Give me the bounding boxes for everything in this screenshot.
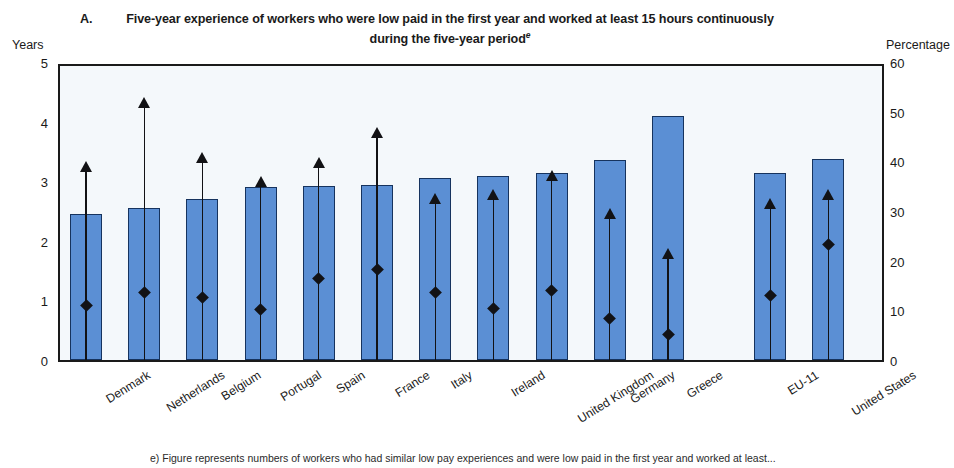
- arrow-marker-11: [764, 198, 776, 209]
- range-line-9: [609, 213, 610, 360]
- arrow-marker-6: [429, 193, 441, 204]
- range-line-11: [770, 203, 771, 360]
- range-line-4: [318, 162, 319, 360]
- arrow-marker-1: [138, 97, 150, 108]
- left-tick-5: 5: [0, 57, 48, 70]
- arrow-marker-8: [546, 170, 558, 181]
- arrow-marker-3: [255, 176, 267, 187]
- range-line-0: [85, 166, 86, 360]
- left-axis-unit-label: Years: [12, 38, 44, 52]
- category-label-eu-11: EU-11: [785, 368, 821, 398]
- range-line-3: [260, 181, 261, 360]
- category-label-belgium: Belgium: [219, 368, 264, 403]
- category-label-united-states: United States: [850, 368, 919, 419]
- category-label-greece: Greece: [684, 368, 725, 401]
- arrow-marker-4: [313, 157, 325, 168]
- right-tick-20: 20: [890, 256, 904, 269]
- left-tick-0: 0: [0, 355, 48, 368]
- arrow-marker-10: [662, 248, 674, 259]
- chart-footnote: e) Figure represents numbers of workers …: [150, 452, 850, 466]
- range-line-8: [551, 175, 552, 360]
- arrow-marker-5: [371, 127, 383, 138]
- arrow-marker-7: [487, 189, 499, 200]
- chart-title-line-2: during the five-year period: [370, 32, 526, 46]
- category-label-portugal: Portugal: [277, 368, 323, 404]
- left-tick-4: 4: [0, 117, 48, 130]
- arrow-marker-0: [80, 161, 92, 172]
- chart-figure: A. Five-year experience of workers who w…: [0, 0, 954, 468]
- range-line-2: [202, 157, 203, 360]
- range-line-6: [435, 198, 436, 360]
- left-tick-2: 2: [0, 236, 48, 249]
- left-tick-1: 1: [0, 295, 48, 308]
- right-tick-30: 30: [890, 206, 904, 219]
- right-tick-10: 10: [890, 305, 904, 318]
- chart-title-line-2-wrap: during the five-year periode: [60, 28, 840, 48]
- chart-title: A. Five-year experience of workers who w…: [60, 12, 840, 47]
- plot-area: [58, 64, 884, 362]
- category-label-spain: Spain: [334, 368, 368, 396]
- right-axis-unit-label: Percentage: [886, 38, 950, 52]
- arrow-marker-2: [196, 152, 208, 163]
- chart-title-line-1: Five-year experience of workers who were…: [126, 12, 774, 26]
- range-line-10: [667, 253, 668, 360]
- plot-inner: [60, 66, 882, 360]
- panel-letter: A.: [80, 12, 92, 28]
- category-label-italy: Italy: [449, 368, 475, 392]
- category-label-ireland: Ireland: [509, 368, 548, 400]
- right-tick-60: 60: [890, 57, 904, 70]
- arrow-marker-9: [604, 208, 616, 219]
- arrow-marker-12: [822, 189, 834, 200]
- title-footnote-marker: e: [526, 30, 531, 40]
- right-tick-50: 50: [890, 107, 904, 120]
- range-line-5: [376, 132, 377, 360]
- category-label-denmark: Denmark: [104, 368, 153, 406]
- category-label-france: France: [393, 368, 433, 400]
- left-tick-3: 3: [0, 176, 48, 189]
- range-line-12: [828, 194, 829, 360]
- right-tick-40: 40: [890, 156, 904, 169]
- range-line-1: [144, 102, 145, 360]
- range-line-7: [493, 194, 494, 360]
- right-tick-0: 0: [890, 355, 897, 368]
